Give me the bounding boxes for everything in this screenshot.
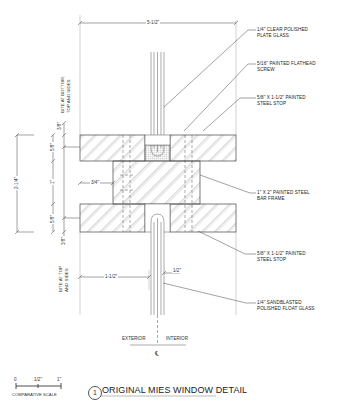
dim-top-stop: 5/8" — [50, 142, 55, 152]
dim-bar-offset: 3/4" — [90, 180, 100, 185]
top-steel-stop — [80, 135, 236, 161]
comparative-scale-bar — [16, 383, 61, 389]
callout-flathead-screw: 5/16" PAINTED FLATHEAD SCREW — [257, 61, 316, 73]
vertical-dimensions — [15, 121, 80, 246]
scale-tick-0: 0 — [14, 377, 17, 382]
detail-title: ORIGINAL MIES WINDOW DETAIL — [102, 385, 247, 395]
centerline-symbol: ℄ — [155, 349, 159, 356]
dim-glass-thickness: 1/2" — [172, 268, 182, 273]
dim-bottom-stop: 5/8" — [50, 214, 55, 224]
note-bite-bottom: BITE AT TOP AND SIDES — [58, 266, 69, 292]
scale-tick-1: 1" — [57, 377, 61, 382]
callout-sandblasted-glass: 1/4" SANDBLASTED POLISHED FLOAT GLASS — [257, 300, 314, 312]
callout-top-steel-stop: 5/8" x 1-1/2" PAINTED STEEL STOP — [257, 95, 306, 107]
dim-bottom-bite: 3/8" — [61, 236, 66, 246]
bar-frame — [113, 161, 200, 204]
callout-bar-frame: 1" x 2" PAINTED STEEL BAR FRAME — [257, 190, 310, 202]
scale-tick-half: 1/2" — [34, 377, 42, 382]
dim-overall-width: 5-1/2" — [146, 20, 160, 25]
note-bite-top: BITE AT BOTTOM, TOP AND SIDES — [60, 76, 71, 113]
dim-bar-height: 1" — [50, 179, 55, 185]
scale-label: COMPARATIVE SCALE — [12, 392, 57, 397]
callout-bottom-steel-stop: 5/8" x 1-1/2" PAINTED STEEL STOP — [257, 251, 306, 263]
lower-glass — [151, 214, 164, 315]
callout-clear-plate-glass: 1/4" CLEAR POLISHED PLATE GLASS — [257, 27, 308, 39]
exterior-label: EXTERIOR — [122, 336, 145, 341]
dim-lower-offset: 1-1/2" — [104, 274, 118, 279]
interior-label: INTERIOR — [166, 336, 188, 341]
dim-top-bite: 3/8" — [57, 121, 62, 131]
detail-number-badge: 1 — [88, 386, 102, 400]
dim-overall-height: 2-1/4" — [14, 176, 19, 190]
